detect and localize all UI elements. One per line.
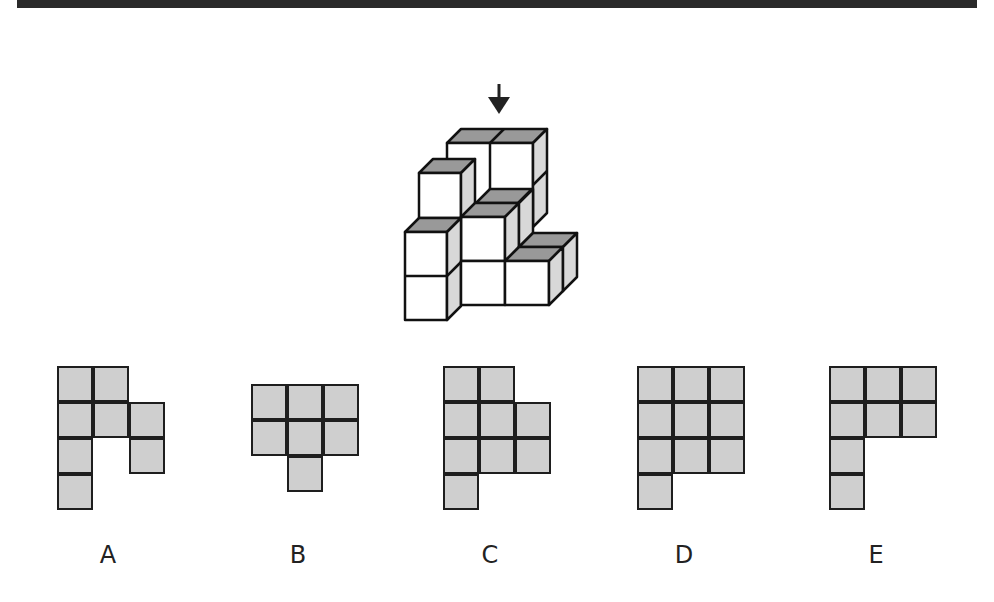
grid-cell [673,438,709,474]
grid-cell [57,438,93,474]
grid-cell [637,438,673,474]
grid-cell [443,402,479,438]
grid-cell [637,474,673,510]
grid-cell [57,366,93,402]
grid-cell [829,474,865,510]
grid-cell [251,420,287,456]
grid-cell [673,402,709,438]
grid-cell [129,438,165,474]
grid-cell [829,366,865,402]
grid-cell [709,402,745,438]
grid-cell [901,366,937,402]
grid-cell [443,438,479,474]
option-label[interactable]: B [268,541,328,569]
grid-cell [443,366,479,402]
grid-cell [829,402,865,438]
option-label[interactable]: C [460,541,520,569]
grid-cell [709,366,745,402]
grid-cell [323,384,359,420]
grid-cell [57,474,93,510]
grid-cell [287,420,323,456]
grid-cell [901,402,937,438]
grid-cell [443,474,479,510]
grid-cell [323,420,359,456]
cube-stack [405,129,577,320]
grid-cell [865,402,901,438]
grid-cell [251,384,287,420]
grid-cell [129,402,165,438]
grid-cell [637,366,673,402]
option-label[interactable]: D [654,541,714,569]
grid-cell [287,456,323,492]
grid-cell [865,366,901,402]
grid-cell [479,366,515,402]
option-label[interactable]: A [78,541,138,569]
grid-cell [93,366,129,402]
grid-cell [479,402,515,438]
option-label[interactable]: E [846,541,906,569]
grid-cell [93,402,129,438]
grid-cell [673,366,709,402]
grid-cell [479,438,515,474]
grid-cell [829,438,865,474]
grid-cell [709,438,745,474]
grid-cell [515,438,551,474]
grid-cell [515,402,551,438]
down-arrow-icon [488,84,510,114]
cube-stack-figure [0,0,994,340]
grid-cell [287,384,323,420]
grid-cell [57,402,93,438]
grid-cell [637,402,673,438]
